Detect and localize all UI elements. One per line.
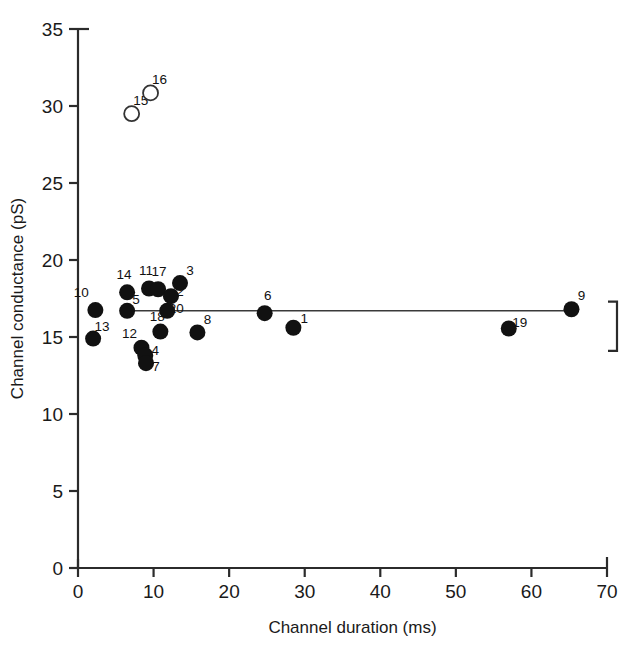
data-point-label-17: 17 [152, 264, 167, 279]
x-tick-label: 30 [294, 581, 315, 602]
x-tick-label: 20 [219, 581, 240, 602]
data-point-label-5: 5 [132, 292, 140, 307]
data-point-label-7: 7 [152, 359, 160, 374]
y-tick-label: 5 [52, 481, 63, 502]
data-point-label-8: 8 [204, 312, 212, 327]
y-tick-label: 20 [42, 250, 63, 271]
data-point-label-10: 10 [74, 285, 89, 300]
range-bracket [608, 302, 617, 351]
y-axis-title: Channel conductance (pS) [8, 198, 27, 399]
data-point-label-3: 3 [186, 263, 194, 278]
data-point-1[interactable] [285, 320, 301, 336]
data-point-label-19: 19 [512, 315, 527, 330]
scatter-plot-figure: 01020304050607005101520253035Channel dur… [0, 0, 637, 658]
data-point-label-14: 14 [117, 267, 133, 282]
x-axis-title: Channel duration (ms) [268, 618, 436, 637]
data-point-15[interactable] [124, 106, 139, 121]
data-point-label-1: 1 [301, 311, 309, 326]
x-tick-label: 40 [370, 581, 391, 602]
y-tick-label: 0 [52, 558, 63, 579]
data-point-label-9: 9 [578, 288, 586, 303]
generated-plot: 01020304050607005101520253035Channel dur… [8, 19, 618, 637]
data-point-label-12: 12 [122, 326, 137, 341]
data-point-6[interactable] [257, 305, 273, 321]
x-tick-label: 0 [73, 581, 84, 602]
y-tick-label: 10 [42, 404, 63, 425]
data-point-label-13: 13 [95, 319, 110, 334]
data-point-10[interactable] [87, 302, 103, 318]
data-point-16[interactable] [143, 85, 158, 100]
y-tick-label: 25 [42, 173, 63, 194]
data-point-label-6: 6 [264, 288, 272, 303]
plot-canvas: 01020304050607005101520253035Channel dur… [0, 0, 637, 658]
x-tick-label: 70 [596, 581, 617, 602]
data-point-label-16: 16 [152, 72, 167, 87]
y-tick-label: 30 [42, 96, 63, 117]
x-tick-label: 10 [143, 581, 164, 602]
x-tick-label: 50 [445, 581, 466, 602]
y-tick-label: 15 [42, 327, 63, 348]
x-tick-label: 60 [521, 581, 542, 602]
data-point-18[interactable] [152, 324, 168, 340]
data-point-9[interactable] [563, 301, 579, 317]
y-tick-label: 35 [42, 19, 63, 40]
data-point-label-4: 4 [152, 343, 160, 358]
